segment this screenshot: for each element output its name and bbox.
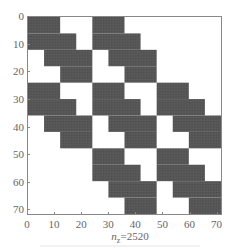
- x-tick-mark: [108, 212, 109, 215]
- x-tick-label: 40: [123, 218, 147, 230]
- caption-faint: [40, 245, 200, 247]
- x-tick-mark: [27, 212, 28, 215]
- nonzero-block: [173, 181, 221, 197]
- nonzero-block: [92, 33, 140, 49]
- nonzero-block: [108, 116, 156, 132]
- x-tick-label: 70: [205, 218, 229, 230]
- y-tick-label: 20: [0, 65, 24, 77]
- x-tick-mark: [81, 212, 82, 215]
- nonzero-block: [157, 99, 205, 115]
- y-tick-label: 40: [0, 121, 24, 133]
- sparsity-pattern: [28, 17, 221, 214]
- nonzero-block: [125, 198, 157, 214]
- nonzero-block: [44, 116, 92, 132]
- y-tick-mark: [27, 182, 30, 183]
- y-tick-mark: [27, 44, 30, 45]
- nonzero-block: [157, 148, 189, 164]
- nonzero-block: [92, 83, 124, 99]
- y-tick-mark: [27, 99, 30, 100]
- nonzero-block: [108, 50, 156, 66]
- x-tick-mark: [54, 212, 55, 215]
- x-tick-label: 20: [69, 218, 93, 230]
- x-tick-label: 50: [150, 218, 174, 230]
- nonzero-block: [92, 148, 124, 164]
- y-tick-label: 50: [0, 148, 24, 160]
- y-tick-label: 60: [0, 176, 24, 188]
- nonzero-block: [157, 83, 189, 99]
- y-tick-mark: [27, 154, 30, 155]
- nonzero-block: [157, 165, 205, 181]
- nonzero-block: [28, 83, 60, 99]
- y-tick-label: 10: [0, 38, 24, 50]
- y-tick-mark: [27, 209, 30, 210]
- y-tick-label: 0: [0, 10, 24, 22]
- nonzero-block: [92, 99, 140, 115]
- nonzero-block: [108, 181, 156, 197]
- y-tick-mark: [27, 71, 30, 72]
- sparsity-plot-area: [27, 16, 222, 215]
- nonzero-block: [92, 165, 140, 181]
- nonzero-block: [189, 132, 221, 148]
- nonzero-block: [125, 132, 157, 148]
- x-tick-mark: [217, 212, 218, 215]
- nonzero-block: [173, 116, 221, 132]
- y-tick-mark: [27, 127, 30, 128]
- nonzero-block: [125, 66, 157, 82]
- y-tick-mark: [27, 16, 30, 17]
- nonzero-block: [44, 50, 92, 66]
- nonzero-block: [28, 33, 76, 49]
- nonzero-block: [92, 17, 124, 33]
- y-tick-label: 70: [0, 203, 24, 215]
- x-tick-label: 10: [42, 218, 66, 230]
- x-tick-mark: [190, 212, 191, 215]
- x-tick-label: 30: [96, 218, 120, 230]
- x-axis-label: nz=2520: [100, 230, 160, 245]
- y-tick-label: 30: [0, 93, 24, 105]
- x-tick-mark: [162, 212, 163, 215]
- x-tick-label: 60: [178, 218, 202, 230]
- nonzero-block: [28, 99, 76, 115]
- x-tick-mark: [135, 212, 136, 215]
- nonzero-block: [60, 132, 92, 148]
- nonzero-block: [60, 66, 92, 82]
- nonzero-block: [28, 17, 60, 33]
- x-tick-label: 0: [15, 218, 39, 230]
